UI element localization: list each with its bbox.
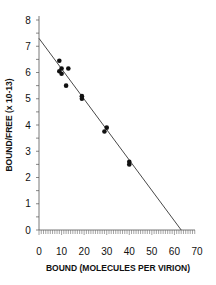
- y-tick-label: 3: [25, 146, 31, 157]
- x-tick-label: 60: [169, 246, 181, 257]
- x-tick-label: 30: [101, 246, 113, 257]
- data-point: [80, 96, 85, 101]
- x-axis: 010203040506070: [36, 230, 203, 257]
- data-point: [64, 83, 69, 88]
- data-point: [102, 129, 107, 134]
- data-point: [66, 66, 71, 71]
- y-axis-title: BOUND/FREE (x 10-13): [4, 78, 14, 171]
- y-tick-label: 1: [25, 198, 31, 209]
- scatter-chart: 012345678 010203040506070 BOUND/FREE (x …: [0, 0, 216, 285]
- x-tick-label: 0: [36, 246, 42, 257]
- y-tick-label: 0: [25, 225, 31, 236]
- y-tick-label: 8: [25, 15, 31, 26]
- y-axis: 012345678: [25, 15, 39, 236]
- x-tick-label: 20: [79, 246, 91, 257]
- x-tick-label: 50: [146, 246, 158, 257]
- y-tick-label: 2: [25, 172, 31, 183]
- data-point: [127, 159, 132, 164]
- data-point: [59, 72, 64, 77]
- y-tick-label: 5: [25, 93, 31, 104]
- y-tick-label: 4: [25, 120, 31, 131]
- data-point: [59, 66, 64, 71]
- x-tick-label: 40: [124, 246, 136, 257]
- x-axis-title: BOUND (MOLECULES PER VIRION): [46, 263, 190, 273]
- data-point: [57, 58, 62, 63]
- y-tick-label: 7: [25, 41, 31, 52]
- x-tick-label: 10: [56, 246, 68, 257]
- data-point: [104, 125, 109, 130]
- y-tick-label: 6: [25, 67, 31, 78]
- x-tick-label: 70: [191, 246, 203, 257]
